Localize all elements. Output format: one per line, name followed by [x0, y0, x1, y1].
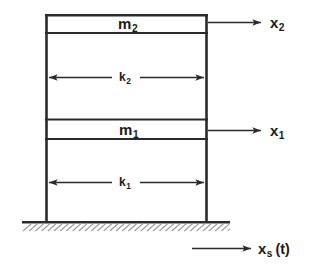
- upper-spring-symbol: k: [119, 70, 126, 84]
- upper-mass-subscript: 2: [132, 23, 138, 34]
- frame-schematic-svg: [0, 0, 311, 267]
- diagram-canvas: m2 m1 k2 k1 x2 x1 xs(t): [0, 0, 311, 267]
- lower-spring-subscript: 1: [126, 181, 131, 191]
- lower-spring-symbol: k: [119, 175, 126, 189]
- lower-displacement-label: x1: [270, 123, 285, 141]
- lower-mass-subscript: 1: [133, 129, 139, 140]
- lower-mass-label: m1: [119, 122, 139, 140]
- upper-mass-symbol: m: [118, 15, 132, 32]
- hatch-lines: [23, 223, 237, 231]
- upper-mass-label: m2: [118, 16, 138, 34]
- base-motion-label: xs(t): [258, 241, 290, 259]
- upper-displacement-label: x2: [270, 15, 285, 33]
- x1-subscript: 1: [278, 130, 284, 141]
- lower-mass-symbol: m: [119, 121, 133, 138]
- ground-support: [22, 222, 237, 231]
- upper-spring-subscript: 2: [126, 76, 131, 86]
- x2-subscript: 2: [278, 22, 284, 33]
- xs-time-argument: (t): [273, 241, 290, 257]
- upper-spring-label: k2: [119, 71, 131, 85]
- frame-columns: [47, 14, 207, 222]
- lower-spring-label: k1: [119, 176, 131, 190]
- xs-subscript: s: [266, 248, 272, 259]
